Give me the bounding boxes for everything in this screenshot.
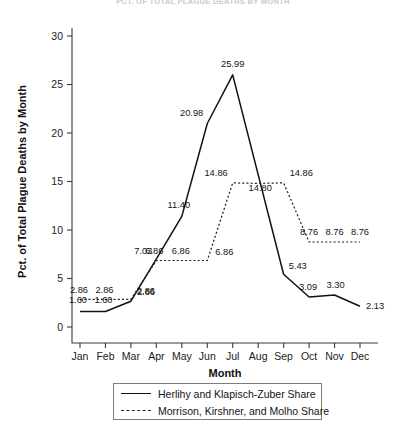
data-point-label: 20.98 xyxy=(180,108,203,118)
y-tick-label: 15 xyxy=(51,175,63,187)
data-point-label: 8.76 xyxy=(351,227,369,237)
data-point-label: 6.86 xyxy=(172,246,190,256)
y-tick-label: 5 xyxy=(57,272,63,284)
data-point-label: 14.86 xyxy=(204,168,227,178)
y-tick-label: 20 xyxy=(51,127,63,139)
data-point-label: 6.86 xyxy=(215,247,233,257)
x-tick-label: Feb xyxy=(96,350,114,362)
data-point-label: 8.76 xyxy=(325,227,343,237)
legend-item-1: Herlihy and Klapisch-Zuber Share xyxy=(114,385,321,402)
data-point-label: 3.30 xyxy=(326,280,344,290)
y-tick-label: 30 xyxy=(51,30,63,42)
legend-item-label: Morrison, Kirshner, and Molho Share xyxy=(158,405,329,417)
x-tick-label: Mar xyxy=(122,350,141,362)
plot-area: 051015202530JanFebMarAprMayJunJulAugSepO… xyxy=(0,0,406,436)
y-axis-title: Pct. of Total Plague Deaths by Month xyxy=(16,85,28,278)
data-point-label: 14.86 xyxy=(290,168,313,178)
y-tick-label: 10 xyxy=(51,224,63,236)
data-point-label: 2.86 xyxy=(70,285,88,295)
legend-item-2: Morrison, Kirshner, and Molho Share xyxy=(114,402,321,419)
data-point-label: 14.80 xyxy=(249,183,272,193)
x-tick-label: Dec xyxy=(351,350,370,362)
y-tick-label: 25 xyxy=(51,78,63,90)
data-point-label: 3.09 xyxy=(299,282,317,292)
x-tick-label: Sep xyxy=(274,350,293,362)
x-axis-title: Month xyxy=(209,367,242,379)
x-tick-label: May xyxy=(172,350,193,362)
data-point-label: 25.99 xyxy=(221,59,244,69)
series-line-2 xyxy=(80,183,360,299)
x-tick-label: Nov xyxy=(325,350,344,362)
data-point-label: 2.86 xyxy=(137,286,155,296)
legend-item-label: Herlihy and Klapisch-Zuber Share xyxy=(158,388,316,400)
x-tick-label: Apr xyxy=(148,350,165,362)
chart-legend: Herlihy and Klapisch-Zuber ShareMorrison… xyxy=(113,383,322,420)
data-point-label: 1.60 xyxy=(94,295,112,305)
data-point-label: 8.76 xyxy=(300,227,318,237)
y-tick-label: 0 xyxy=(57,321,63,333)
dashed-line-icon xyxy=(121,406,151,415)
solid-line-icon xyxy=(121,389,151,398)
data-point-label: 2.13 xyxy=(366,301,384,311)
data-point-label: 11.40 xyxy=(168,200,191,210)
x-tick-label: Jan xyxy=(72,350,89,362)
chart-figure: PCT. OF TOTAL PLAGUE DEATHS BY MONTH 051… xyxy=(0,0,406,436)
x-tick-label: Oct xyxy=(301,350,317,362)
data-point-label: 6.86 xyxy=(145,246,163,256)
data-point-label: 5.43 xyxy=(289,261,307,271)
data-point-label: 1.60 xyxy=(69,295,87,305)
data-point-label: 2.86 xyxy=(95,285,113,295)
series-line-1 xyxy=(80,75,360,312)
x-tick-label: Aug xyxy=(249,350,268,362)
x-tick-label: Jun xyxy=(199,350,216,362)
x-tick-label: Jul xyxy=(226,350,239,362)
